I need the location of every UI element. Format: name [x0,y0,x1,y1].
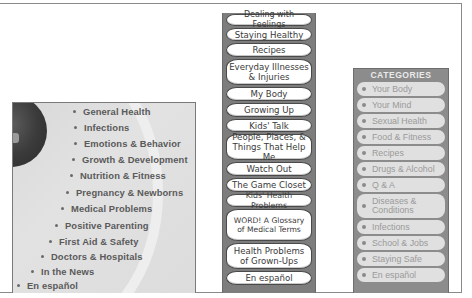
kids-btn-health-problems-grownups[interactable]: Health Problems of Grown-Ups [226,243,312,269]
menu-item-en-espanol[interactable]: En español [17,280,78,291]
kids-btn-kids-health-problems[interactable]: Kids' Health Problems [226,194,312,207]
kids-btn-my-body[interactable]: My Body [226,87,312,101]
category-infections[interactable]: Infections [357,220,445,234]
category-diseases-conditions[interactable]: Diseases & Conditions [357,194,445,218]
menu-item-growth-development[interactable]: Growth & Development [72,154,188,165]
category-recipes[interactable]: Recipes [357,146,445,160]
kids-btn-watch-out[interactable]: Watch Out [226,162,312,176]
category-food-fitness[interactable]: Food & Fitness [357,130,445,144]
bullet-icon [362,103,366,107]
menu-item-positive-parenting[interactable]: Positive Parenting [55,220,149,231]
bullet-icon [55,224,58,227]
category-q-and-a[interactable]: Q & A [357,178,445,192]
bullet-icon [362,204,366,208]
category-staying-safe[interactable]: Staying Safe [357,252,445,266]
bullet-icon [17,284,20,287]
bullet-icon [362,135,366,139]
category-school-jobs[interactable]: School & Jobs [357,236,445,250]
category-your-body[interactable]: Your Body [357,82,445,96]
kids-btn-everyday-illnesses[interactable]: Everyday Illnesses & Injuries [226,59,312,85]
bullet-icon [74,126,77,129]
bullet-icon [66,191,69,194]
bullet-icon [31,270,34,273]
menu-item-general-health[interactable]: General Health [73,106,151,117]
bullet-icon [362,225,366,229]
bullet-icon [72,158,75,161]
kids-menu-column: Dealing with Feelings Staying Healthy Re… [222,13,316,293]
menu-item-doctors-hospitals[interactable]: Doctors & Hospitals [41,251,143,262]
menu-item-in-the-news[interactable]: In the News [31,266,94,277]
category-en-espanol[interactable]: En español [357,268,445,282]
bullet-icon [362,273,366,277]
category-your-mind[interactable]: Your Mind [357,98,445,112]
bullet-icon [362,167,366,171]
kids-btn-en-espanol[interactable]: En español [226,271,312,285]
teens-categories-panel: CATEGORIES Your Body Your Mind Sexual He… [353,68,449,293]
bullet-icon [362,119,366,123]
menu-item-nutrition-fitness[interactable]: Nutrition & Fitness [70,170,166,181]
kids-btn-staying-healthy[interactable]: Staying Healthy [226,28,312,41]
menu-item-first-aid-safety[interactable]: First Aid & Safety [49,236,139,247]
parents-menu-panel: General Health Infections Emotions & Beh… [12,102,196,293]
menu-item-emotions-behavior[interactable]: Emotions & Behavior [74,138,181,149]
menu-item-infections[interactable]: Infections [74,122,129,133]
bullet-icon [74,142,77,145]
bullet-icon [41,255,44,258]
bullet-icon [362,183,366,187]
bullet-icon [362,257,366,261]
bullet-icon [73,110,76,113]
categories-header: CATEGORIES [357,69,445,82]
bullet-icon [362,151,366,155]
bullet-icon [61,207,64,210]
menu-item-medical-problems[interactable]: Medical Problems [61,203,152,214]
kids-btn-growing-up[interactable]: Growing Up [226,103,312,117]
bullet-icon [49,240,52,243]
menu-item-pregnancy-newborns[interactable]: Pregnancy & Newborns [66,187,183,198]
kids-btn-word-glossary[interactable]: WORD! A Glossary of Medical Terms [226,209,312,241]
bullet-icon [362,241,366,245]
bullet-icon [70,174,73,177]
bullet-icon [362,87,366,91]
kids-btn-kids-talk[interactable]: Kids' Talk [226,119,312,132]
kids-btn-dealing-with-feelings[interactable]: Dealing with Feelings [226,14,312,26]
kids-btn-people-places-things[interactable]: People, Places, & Things That Help Me [226,134,312,160]
kids-btn-recipes[interactable]: Recipes [226,43,312,57]
category-sexual-health[interactable]: Sexual Health [357,114,445,128]
category-drugs-alcohol[interactable]: Drugs & Alcohol [357,162,445,176]
